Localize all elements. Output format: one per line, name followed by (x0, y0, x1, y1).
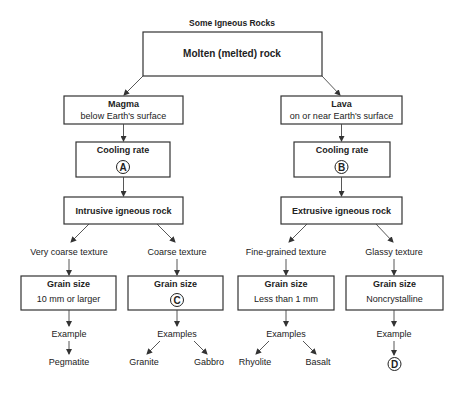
cooling-rate-b-node: Cooling rate B (294, 142, 390, 177)
grain-size-node-4: Grain size Noncrystalline (346, 276, 443, 310)
grain-size-node-1: Grain size 10 mm or larger (21, 276, 116, 310)
grain-label-3: Grain size (264, 279, 307, 289)
diagram-title: Some Igneous Rocks (189, 18, 275, 28)
extrusive-label: Extrusive igneous rock (292, 206, 392, 216)
arrow-extrusive-to-fine (289, 224, 307, 242)
lava-node: Lava on or near Earth's surface (281, 96, 402, 124)
example-basalt: Basalt (305, 357, 331, 367)
example-pegmatite: Pegmatite (49, 357, 90, 367)
example-granite: Granite (129, 357, 159, 367)
magma-title: Magma (108, 99, 140, 109)
example-label-4: Example (376, 329, 411, 339)
root-label: Molten (melted) rock (183, 48, 281, 59)
marker-c: C (173, 295, 180, 306)
example-gabbro: Gabbro (194, 357, 224, 367)
grain-label-4: Grain size (373, 279, 416, 289)
lava-subtitle: on or near Earth's surface (290, 111, 393, 121)
extrusive-node: Extrusive igneous rock (281, 197, 402, 224)
example-label-3: Examples (266, 329, 306, 339)
igneous-rocks-flowchart: Some Igneous Rocks Molten (melted) rock … (0, 0, 464, 393)
intrusive-node: Intrusive igneous rock (64, 197, 183, 224)
arrow-intrusive-to-very-coarse (71, 224, 89, 242)
example-rhyolite: Rhyolite (239, 357, 272, 367)
arrow-root-to-magma (124, 76, 143, 95)
arrow-intrusive-to-coarse (157, 224, 175, 242)
cooling-b-label: Cooling rate (316, 145, 369, 155)
arrow-root-to-lava (322, 76, 340, 95)
grain-value-4: Noncrystalline (366, 294, 423, 304)
grain-label-2: Grain size (154, 279, 197, 289)
root-node: Molten (melted) rock (143, 32, 322, 76)
texture-coarse: Coarse texture (147, 247, 206, 257)
lava-title: Lava (331, 99, 353, 109)
arrow-to-granite (147, 341, 160, 354)
arrow-to-basalt (303, 341, 316, 354)
texture-glassy: Glassy texture (365, 247, 423, 257)
magma-subtitle: below Earth's surface (81, 111, 167, 121)
grain-value-1: 10 mm or larger (37, 294, 101, 304)
example-label-1: Example (51, 329, 86, 339)
texture-very-coarse: Very coarse texture (30, 247, 108, 257)
cooling-a-label: Cooling rate (97, 145, 150, 155)
grain-size-node-2: Grain size C (128, 276, 223, 310)
grain-size-node-3: Grain size Less than 1 mm (238, 276, 334, 310)
intrusive-label: Intrusive igneous rock (75, 206, 172, 216)
marker-b: B (338, 162, 345, 173)
arrow-to-gabbro (194, 341, 207, 354)
arrow-extrusive-to-glassy (376, 224, 393, 242)
magma-node: Magma below Earth's surface (64, 96, 183, 124)
texture-fine-grained: Fine-grained texture (246, 247, 327, 257)
grain-value-3: Less than 1 mm (254, 294, 318, 304)
grain-label-1: Grain size (47, 279, 90, 289)
arrow-to-rhyolite (256, 341, 269, 354)
example-label-2: Examples (157, 329, 197, 339)
cooling-rate-a-node: Cooling rate A (76, 142, 170, 177)
marker-d: D (391, 359, 398, 370)
marker-a: A (119, 162, 126, 173)
